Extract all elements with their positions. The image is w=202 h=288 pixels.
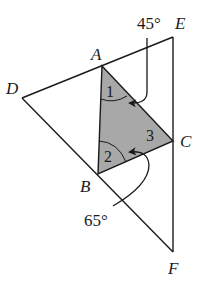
angle-45-label: 45° — [137, 14, 161, 33]
point-label-f: F — [167, 259, 179, 278]
point-label-e: E — [174, 14, 186, 33]
angle-3-label: 3 — [146, 127, 154, 144]
angle-1-label: 1 — [106, 83, 114, 100]
geometry-diagram: 1 2 3 45° 65° A B C D E F — [0, 0, 202, 288]
point-label-d: D — [5, 79, 19, 98]
point-label-c: C — [180, 132, 192, 151]
point-label-a: A — [90, 45, 102, 64]
point-label-b: B — [80, 177, 91, 196]
angle-2-label: 2 — [104, 148, 112, 165]
arrow-45 — [130, 38, 147, 103]
angle-65-label: 65° — [84, 211, 108, 230]
